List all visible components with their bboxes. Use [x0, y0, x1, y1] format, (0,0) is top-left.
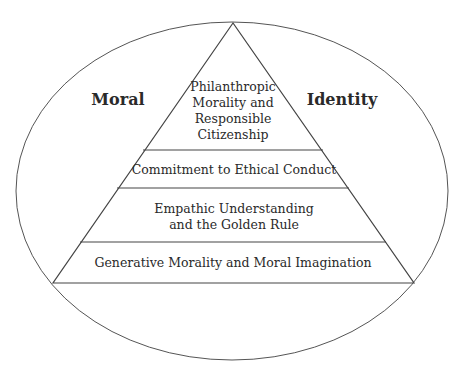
- outer-label-moral: Moral: [91, 90, 144, 109]
- level-1-line-2: Morality and: [192, 95, 273, 110]
- moral-identity-diagram: Moral Identity Philanthropic Morality an…: [0, 0, 462, 376]
- outer-label-identity: Identity: [307, 90, 378, 109]
- level-1-line-1: Philanthropic: [190, 79, 276, 94]
- level-4-line-1: Generative Morality and Moral Imaginatio…: [94, 255, 371, 270]
- level-3-line-2: and the Golden Rule: [169, 217, 299, 232]
- pyramid-outline: [53, 23, 414, 283]
- moral-identity-ellipse: [16, 22, 448, 360]
- level-2-line-1: Commitment to Ethical Conduct: [132, 162, 336, 177]
- level-1-line-4: Citizenship: [197, 127, 268, 142]
- level-3-line-1: Empathic Understanding: [154, 201, 313, 216]
- level-1-line-3: Responsible: [195, 111, 272, 126]
